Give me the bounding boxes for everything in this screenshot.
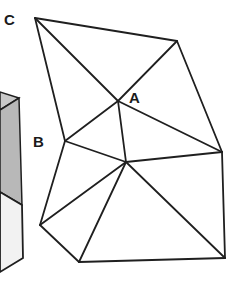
label-a: A — [129, 90, 140, 105]
cube-shape — [0, 92, 23, 272]
cube-lower-face — [0, 192, 23, 272]
triangulation-edges — [35, 18, 225, 262]
label-c: C — [4, 12, 15, 27]
cube-side-face — [0, 98, 22, 205]
label-b: B — [33, 134, 44, 149]
